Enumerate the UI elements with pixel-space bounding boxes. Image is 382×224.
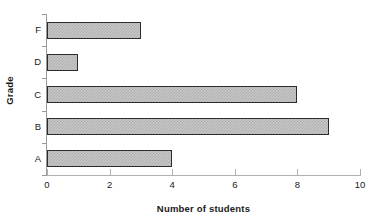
y-axis-title: Grade — [0, 0, 18, 180]
x-axis-tick — [172, 169, 173, 176]
plot-area: 0246810 FDCBA — [47, 14, 360, 175]
bar-c — [47, 86, 297, 103]
x-axis-tick-label: 4 — [152, 179, 192, 190]
y-axis-label-b: B — [17, 121, 41, 132]
x-axis-tick-label: 0 — [27, 179, 67, 190]
x-axis-tick-label: 2 — [90, 179, 130, 190]
x-axis-tick-label: 10 — [340, 179, 380, 190]
bar-chart: Grade 0246810 FDCBA Number of students — [0, 0, 382, 224]
y-axis-label-f: F — [17, 24, 41, 35]
bar-d — [47, 54, 78, 71]
y-axis-tick — [42, 143, 47, 144]
y-axis-label-c: C — [17, 89, 41, 100]
y-axis-tick — [42, 14, 47, 15]
x-axis-line — [46, 175, 360, 176]
bar-b — [47, 118, 329, 135]
y-axis-title-label: Grade — [4, 76, 15, 104]
y-axis-tick — [42, 175, 47, 176]
x-axis-tick — [235, 169, 236, 176]
x-axis-tick — [47, 169, 48, 176]
y-axis-tick — [42, 111, 47, 112]
x-axis-tick — [110, 169, 111, 176]
bar-f — [47, 22, 141, 39]
y-axis-label-a: A — [17, 153, 41, 164]
y-axis-label-d: D — [17, 56, 41, 67]
x-axis-tick-label: 8 — [277, 179, 317, 190]
x-axis-tick — [297, 169, 298, 176]
x-axis-title: Number of students — [47, 203, 360, 214]
x-axis-tick-label: 6 — [215, 179, 255, 190]
y-axis-tick — [42, 78, 47, 79]
y-axis-tick — [42, 46, 47, 47]
x-axis-tick — [360, 169, 361, 176]
bar-a — [47, 150, 172, 167]
